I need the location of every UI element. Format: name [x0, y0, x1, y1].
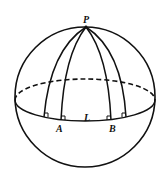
sphere-outline: [15, 27, 155, 167]
pole-label: P: [83, 14, 90, 25]
meridian-inner-right-to-b: [86, 27, 111, 120]
point-a-label: A: [55, 123, 63, 134]
point-b-label: B: [108, 123, 116, 134]
meridian-outer-left: [44, 27, 86, 117]
equator-label: L: [83, 112, 90, 123]
sphere-figure: P A L B: [0, 0, 166, 177]
equator-back-dashed: [15, 79, 155, 100]
sphere-diagram: P A L B: [0, 0, 166, 177]
meridian-inner-left-to-a: [61, 27, 86, 120]
pole-point: [85, 26, 88, 29]
meridian-outer-right: [86, 27, 126, 117]
